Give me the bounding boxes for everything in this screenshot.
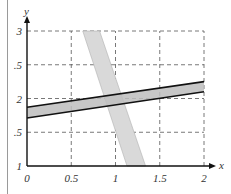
y-tick-label: 3	[16, 25, 23, 37]
x-tick-label: 1	[113, 172, 119, 184]
y-axis-arrow-icon	[24, 16, 30, 23]
x-tick-label: 1.5	[153, 172, 167, 184]
x-tick-label: 0.5	[64, 172, 78, 184]
y-tick-label: .5	[14, 126, 23, 138]
y-tick-label: .5	[14, 59, 23, 71]
y-tick-label: 2	[17, 93, 23, 105]
x-axis-arrow-icon	[209, 163, 216, 169]
x-tick-label: 0	[24, 172, 30, 184]
x-axis-label: x	[218, 159, 224, 171]
y-tick-label: 1	[17, 160, 23, 172]
band-chart: x y 00.511.521.52.53	[0, 0, 231, 194]
y-axis-label: y	[23, 5, 29, 17]
x-tick-label: 2	[201, 172, 207, 184]
